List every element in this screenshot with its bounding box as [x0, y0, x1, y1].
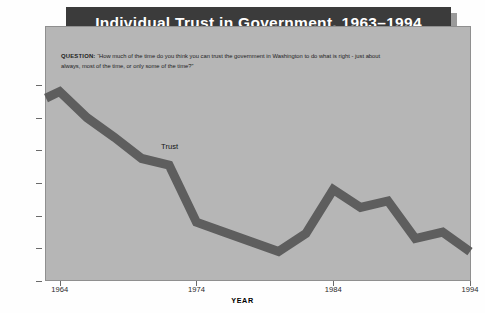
x-tick-mark: [333, 281, 334, 286]
plot-panel: QUESTION: “How much of the time do you t…: [45, 26, 471, 281]
question-block: QUESTION: “How much of the time do you t…: [61, 51, 391, 72]
x-tick-label: 1984: [325, 285, 342, 294]
x-axis-title: YEAR: [0, 296, 485, 305]
y-tick-mark: [36, 216, 42, 217]
y-tick-mark: [36, 118, 42, 119]
x-tick-label: 1964: [51, 285, 68, 294]
y-tick-mark: [36, 85, 42, 86]
x-tick-label: 1974: [188, 285, 205, 294]
question-text: “How much of the time do you think you c…: [61, 53, 380, 69]
x-tick-mark: [196, 281, 197, 286]
y-tick-mark: [36, 183, 42, 184]
y-tick-mark: [36, 150, 42, 151]
x-tick-mark: [470, 281, 471, 286]
series-annotation-trust: Trust: [161, 142, 178, 151]
x-tick-label: 1994: [462, 285, 479, 294]
y-tick-mark: [36, 281, 42, 282]
plot-area: QUESTION: “How much of the time do you t…: [46, 27, 470, 280]
x-tick-mark: [60, 281, 61, 286]
y-tick-mark: [36, 248, 42, 249]
chart-figure: Individual Trust in Government, 1963–199…: [0, 0, 485, 313]
question-label: QUESTION:: [61, 53, 96, 59]
